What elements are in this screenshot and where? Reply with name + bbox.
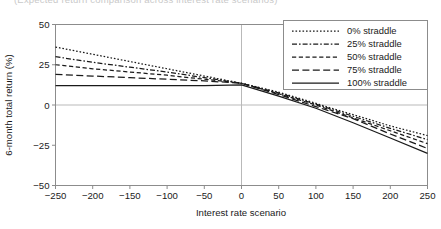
- y-tick-label: 50: [39, 19, 50, 30]
- x-tick-label: 200: [382, 190, 398, 201]
- x-tick-label: 0: [239, 190, 244, 201]
- x-tick-label: −250: [45, 190, 67, 201]
- x-tick-label: 50: [273, 190, 284, 201]
- y-tick-labels: 50250−25−50: [33, 19, 49, 191]
- x-tick-label: 250: [419, 190, 435, 201]
- y-tick-label: 25: [39, 59, 50, 70]
- x-tick-label: −150: [119, 190, 141, 201]
- x-axis-title: Interest rate scenario: [196, 207, 286, 218]
- line-chart: −250−200−150−100−50050100150200250 50250…: [0, 0, 441, 229]
- legend: 0% straddle25% straddle50% straddle75% s…: [284, 21, 428, 90]
- y-tick-label: −25: [33, 140, 49, 151]
- x-tick-label: 150: [345, 190, 361, 201]
- legend-label: 75% straddle: [347, 64, 402, 75]
- x-tick-label: −50: [196, 190, 212, 201]
- x-tick-label: 100: [308, 190, 324, 201]
- figure-container: (Expected return comparison across inter…: [0, 0, 441, 229]
- y-tick-label: 0: [44, 100, 49, 111]
- legend-label: 100% straddle: [347, 77, 407, 88]
- x-tick-label: −200: [82, 190, 104, 201]
- legend-label: 50% straddle: [347, 51, 402, 62]
- y-tick-label: −50: [33, 180, 49, 191]
- legend-label: 25% straddle: [347, 38, 402, 49]
- y-axis-title: 6-month total return (%): [3, 54, 14, 155]
- legend-label: 0% straddle: [347, 25, 397, 36]
- x-tick-labels: −250−200−150−100−50050100150200250: [45, 190, 436, 201]
- x-tick-label: −100: [156, 190, 178, 201]
